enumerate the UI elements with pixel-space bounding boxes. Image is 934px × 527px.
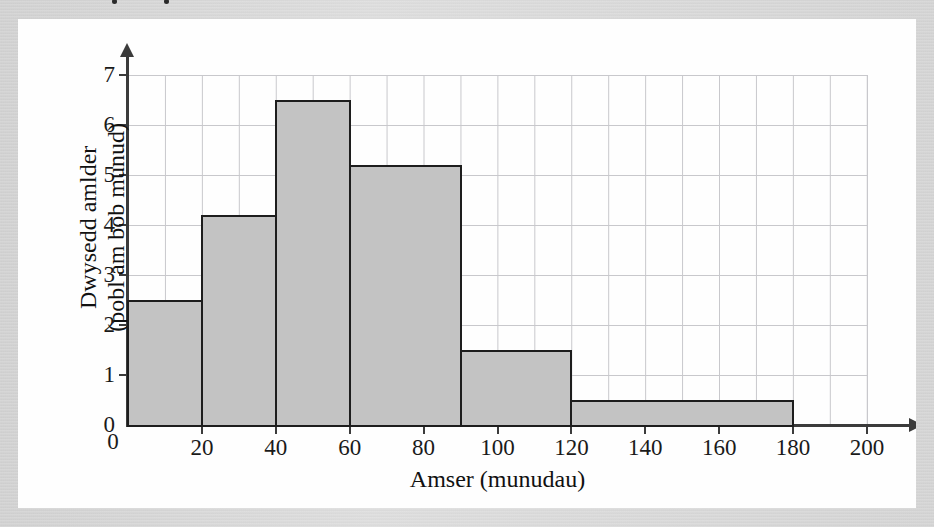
x-tick-label-120: 120	[536, 436, 606, 459]
histogram-bar	[127, 300, 203, 427]
grid-right-edge	[867, 75, 868, 425]
x-tick-label-180: 180	[758, 436, 828, 459]
histogram-bar	[275, 100, 351, 427]
x-tick-label-200: 200	[832, 436, 902, 459]
x-tick-label-140: 140	[610, 436, 680, 459]
histogram-bar	[570, 400, 794, 427]
x-tick-label-160: 160	[684, 436, 754, 459]
x-tick-200	[866, 425, 868, 434]
x-axis-title: Amser (munudau)	[128, 466, 867, 493]
y-axis-arrowhead	[120, 43, 134, 57]
x-axis-arrowhead	[909, 418, 916, 432]
x-tick-label-40: 40	[241, 436, 311, 459]
x-tick-label-0: 0	[78, 430, 148, 453]
x-tick-label-60: 60	[315, 436, 385, 459]
plot-area: 01234567 020406080100120140160180200	[128, 75, 867, 425]
y-axis-title-line1: Dwysedd amlder	[74, 77, 102, 377]
y-tick-7	[119, 74, 128, 76]
grid-top-edge	[128, 75, 867, 76]
x-tick-label-20: 20	[167, 436, 237, 459]
x-tick-label-100: 100	[463, 436, 533, 459]
y-axis-title: Dwysedd amlder (pobl am bob munud)	[74, 77, 131, 377]
cropped-ink-fragments	[108, 0, 328, 8]
x-tick-label-80: 80	[389, 436, 459, 459]
histogram-bar	[460, 350, 573, 427]
histogram-bar	[201, 215, 277, 427]
chart-page: 01234567 020406080100120140160180200 Dwy…	[18, 19, 916, 508]
histogram-bar	[349, 165, 462, 427]
